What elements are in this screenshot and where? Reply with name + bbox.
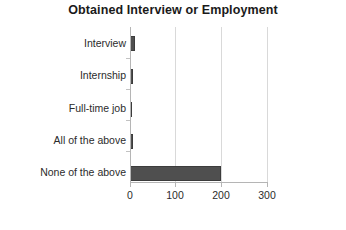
category-label-full-time-job: Full-time job (69, 102, 126, 114)
gridline-100 (175, 27, 176, 182)
category-label-internship: Internship (80, 69, 126, 81)
category-axis-tick (126, 89, 130, 90)
category-axis-tick (126, 151, 130, 152)
value-axis-label-100: 100 (155, 189, 195, 201)
category-axis-tick (126, 58, 130, 59)
bar-none-of-the-above (130, 166, 221, 181)
value-axis-tick-0 (130, 183, 131, 187)
category-axis-line (130, 27, 131, 183)
value-axis-label-300: 300 (247, 189, 287, 201)
bar-chart: Obtained Interview or Employment Intervi… (0, 0, 346, 230)
value-axis-tick-100 (175, 183, 176, 187)
value-axis-label-0: 0 (110, 189, 150, 201)
gridline-300 (267, 27, 268, 182)
value-axis-tick-300 (267, 183, 268, 187)
value-axis-label-200: 200 (201, 189, 241, 201)
gridline-200 (221, 27, 222, 182)
plot-area (130, 27, 267, 182)
value-axis-tick-200 (221, 183, 222, 187)
category-label-all-of-the-above: All of the above (54, 134, 126, 146)
value-axis-line (130, 182, 268, 183)
chart-title: Obtained Interview or Employment (0, 3, 346, 17)
category-label-interview: Interview (84, 37, 126, 49)
category-axis-tick (126, 120, 130, 121)
category-label-none-of-the-above: None of the above (40, 166, 126, 178)
